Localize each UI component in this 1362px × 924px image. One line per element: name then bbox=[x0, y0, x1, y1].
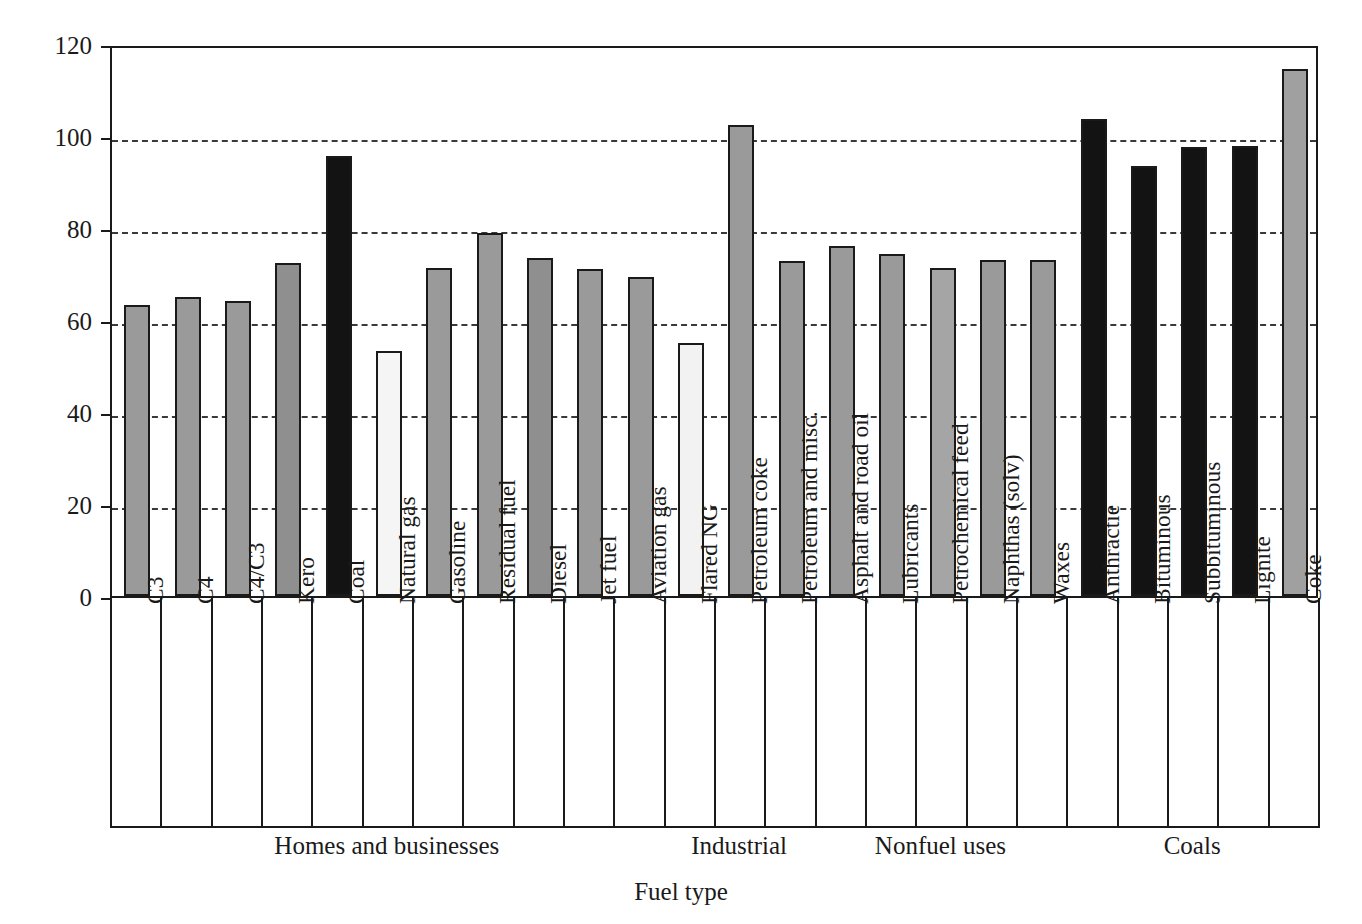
x-category-label-text: Aviation gas bbox=[647, 486, 671, 604]
group-separator bbox=[110, 798, 112, 828]
y-tick-mark bbox=[101, 138, 110, 140]
group-axis-line bbox=[110, 826, 1318, 828]
x-axis-title: Fuel type bbox=[0, 878, 1362, 906]
x-category-label-text: Residual fuel bbox=[496, 479, 520, 604]
x-category-label: Bituminous bbox=[1117, 604, 1167, 820]
group-separator bbox=[1318, 798, 1320, 828]
x-category-label-text: C4/C3 bbox=[245, 543, 269, 604]
x-category-label-text: Waxes bbox=[1050, 542, 1074, 604]
group-label: Homes and businesses bbox=[110, 832, 664, 860]
x-category-label-text: Petroleum and misc. bbox=[798, 411, 822, 604]
x-category-label-text: Lignite bbox=[1251, 536, 1275, 604]
x-category-label-text: Naphthas (solv) bbox=[1000, 455, 1024, 604]
bar bbox=[175, 297, 201, 596]
y-tick-mark bbox=[101, 414, 110, 416]
x-category-label-text: Coal bbox=[345, 560, 369, 604]
x-category-label-text: Anthractie bbox=[1100, 505, 1124, 604]
bar bbox=[275, 263, 301, 596]
x-category-separator bbox=[1318, 598, 1320, 826]
x-category-label-text: Kero bbox=[295, 557, 319, 604]
group-label: Coals bbox=[1066, 832, 1318, 860]
x-category-label: Natural gas bbox=[362, 604, 412, 820]
x-category-label: Petroleum coke bbox=[714, 604, 764, 820]
y-tick-label: 80 bbox=[38, 217, 92, 242]
bar bbox=[124, 305, 150, 596]
x-category-label: Waxes bbox=[1016, 604, 1066, 820]
x-category-label-text: Jet fuel bbox=[597, 535, 621, 604]
x-category-label: C4 bbox=[160, 604, 210, 820]
x-category-label: Subbituminous bbox=[1167, 604, 1217, 820]
x-category-label-text: Diesel bbox=[547, 544, 571, 604]
x-category-label-text: Flared NG bbox=[698, 504, 722, 604]
x-category-label: Aviation gas bbox=[613, 604, 663, 820]
x-category-label-text: Lubricants bbox=[899, 504, 923, 605]
x-category-label-text: Petroleum coke bbox=[748, 457, 772, 604]
bar bbox=[1232, 146, 1258, 596]
x-category-label: Flared NG bbox=[664, 604, 714, 820]
y-tick-mark bbox=[101, 322, 110, 324]
bar-chart-figure: kg CO2/MBUT 020406080100120 C3C4C4/C3Ker… bbox=[0, 0, 1362, 924]
x-category-label-text: Bituminous bbox=[1151, 494, 1175, 604]
x-category-label: Kero bbox=[261, 604, 311, 820]
x-category-label-text: Coke bbox=[1302, 554, 1326, 604]
group-label: Nonfuel uses bbox=[815, 832, 1067, 860]
x-category-label-text: Subbituminous bbox=[1201, 462, 1225, 604]
x-category-label: C3 bbox=[110, 604, 160, 820]
x-category-label: Petrochemical feed bbox=[915, 604, 965, 820]
y-tick-label: 120 bbox=[38, 33, 92, 58]
x-category-label: Gasoline bbox=[412, 604, 462, 820]
bar bbox=[1282, 69, 1308, 596]
y-tick-label: 100 bbox=[38, 125, 92, 150]
group-label: Industrial bbox=[664, 832, 815, 860]
x-category-label: Asphalt and road oil bbox=[815, 604, 865, 820]
x-category-label-text: Asphalt and road oil bbox=[849, 413, 873, 604]
x-category-label: Residual fuel bbox=[462, 604, 512, 820]
y-tick-mark bbox=[101, 230, 110, 232]
y-tick-mark bbox=[101, 598, 110, 600]
x-category-label-text: Petrochemical feed bbox=[949, 423, 973, 604]
x-category-label: Lignite bbox=[1217, 604, 1267, 820]
y-tick-label: 60 bbox=[38, 309, 92, 334]
x-category-label: Coke bbox=[1268, 604, 1318, 820]
bar bbox=[326, 156, 352, 596]
y-tick-mark bbox=[101, 506, 110, 508]
x-category-label: Naphthas (solv) bbox=[966, 604, 1016, 820]
x-category-label-text: C3 bbox=[144, 577, 168, 604]
x-category-label: Jet fuel bbox=[563, 604, 613, 820]
y-tick-mark bbox=[101, 46, 110, 48]
x-category-label-text: Gasoline bbox=[446, 520, 470, 604]
y-tick-label: 20 bbox=[38, 493, 92, 518]
y-tick-label: 0 bbox=[38, 585, 92, 610]
x-category-label: Anthractie bbox=[1066, 604, 1116, 820]
x-category-label: C4/C3 bbox=[211, 604, 261, 820]
x-category-label: Petroleum and misc. bbox=[764, 604, 814, 820]
x-category-label-text: C4 bbox=[194, 577, 218, 604]
group-separator bbox=[664, 798, 666, 828]
x-category-label-text: Natural gas bbox=[396, 496, 420, 604]
x-category-label: Coal bbox=[311, 604, 361, 820]
x-axis-category-labels: C3C4C4/C3KeroCoalNatural gasGasolineResi… bbox=[110, 598, 1318, 830]
y-tick-label: 40 bbox=[38, 401, 92, 426]
x-category-label: Lubricants bbox=[865, 604, 915, 820]
group-separator bbox=[1066, 798, 1068, 828]
group-separator bbox=[815, 798, 817, 828]
x-category-label: Diesel bbox=[513, 604, 563, 820]
